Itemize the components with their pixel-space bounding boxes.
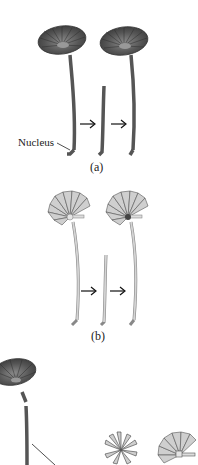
acetabularia-figure bbox=[0, 0, 198, 465]
dark-cap-cell-grafted bbox=[0, 355, 55, 465]
nucleus-pointer bbox=[57, 143, 70, 150]
light-cap-right bbox=[158, 432, 196, 463]
cut-stalk-a bbox=[99, 86, 104, 155]
light-cap-cell-left bbox=[48, 191, 90, 325]
panel-label-b: (b) bbox=[91, 329, 105, 344]
light-cap-cell-right bbox=[106, 191, 148, 325]
dark-cap-cell-right bbox=[98, 24, 149, 155]
panel-c bbox=[0, 355, 196, 465]
dark-cap-cell-left bbox=[36, 23, 87, 154]
nucleus-label: Nucleus bbox=[18, 136, 54, 148]
pointer-line bbox=[32, 444, 55, 465]
panel-b bbox=[48, 191, 148, 325]
intermediate-cap bbox=[105, 432, 137, 464]
arrow-icon bbox=[81, 287, 125, 295]
panel-label-a: (a) bbox=[90, 160, 103, 175]
